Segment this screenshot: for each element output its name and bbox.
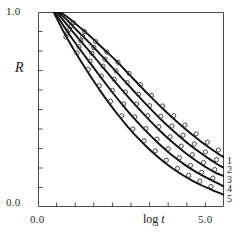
curve-legend: 12345 — [227, 156, 232, 203]
axis-frame — [39, 13, 224, 207]
x-axis-title-variable: t — [161, 212, 164, 226]
data-point-markers — [64, 21, 221, 189]
y-axis-tick-label-bottom: 0.0 — [6, 196, 20, 208]
x-axis-title-prefix: log — [143, 212, 161, 226]
curve-label-5: 5 — [227, 194, 232, 203]
x-axis-title: log t — [143, 212, 165, 227]
y-axis-title: R — [15, 60, 24, 76]
x-axis-tick-label-left: 0.0 — [30, 213, 44, 225]
y-axis-tick-label-top: 1.0 — [6, 5, 20, 17]
x-axis-tick-label-right: 5.0 — [198, 213, 212, 225]
plot-area — [38, 12, 224, 207]
chart-figure: R 1.0 0.0 0.0 5.0 log t 12345 — [0, 0, 248, 244]
plot-svg — [38, 12, 224, 207]
